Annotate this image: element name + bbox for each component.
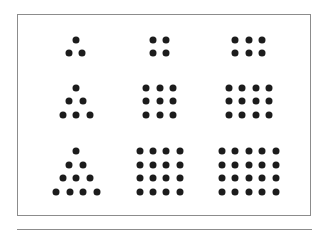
bottom-rule [17,229,312,230]
dot [273,189,280,196]
dot [259,189,266,196]
dot [150,175,157,182]
dot [60,112,67,119]
dot [150,50,157,57]
dot [67,189,74,196]
dot [87,175,94,182]
dot [163,148,170,155]
dot [177,148,184,155]
dot [60,175,67,182]
dot [246,37,253,44]
dot [232,37,239,44]
dot [246,162,253,169]
dot [170,85,177,92]
dot [273,175,280,182]
dot [232,189,239,196]
dot [226,85,233,92]
dot [246,189,253,196]
dot [259,162,266,169]
dot [80,162,87,169]
dot [246,175,253,182]
dot [163,175,170,182]
dot [137,148,144,155]
dot [163,37,170,44]
dot [73,85,80,92]
dot [232,162,239,169]
dot [73,175,80,182]
dot [80,98,87,105]
dot [219,175,226,182]
dot [239,98,246,105]
dot [273,148,280,155]
dot [177,175,184,182]
dot [239,85,246,92]
dot [66,98,73,105]
dot [79,50,86,57]
dot [150,37,157,44]
dot [150,148,157,155]
dot [80,189,87,196]
dot [259,175,266,182]
dot [137,175,144,182]
dot [66,162,73,169]
dot [157,112,164,119]
dot [87,112,94,119]
diagram-canvas [0,0,326,233]
dot [143,85,150,92]
dot [157,98,164,105]
dot [170,112,177,119]
dot [232,50,239,57]
dot [246,148,253,155]
dot [266,112,273,119]
dot [219,162,226,169]
dot [66,50,73,57]
dot [163,50,170,57]
dot [266,98,273,105]
dot [219,189,226,196]
dot [253,85,260,92]
dot [177,162,184,169]
dot [137,162,144,169]
dot [170,98,177,105]
dot [246,50,253,57]
dot [226,98,233,105]
dot [226,112,233,119]
dot [150,189,157,196]
dot [53,189,60,196]
dot [253,98,260,105]
dot [219,148,226,155]
dot [273,162,280,169]
dot [73,148,80,155]
dot [157,85,164,92]
dot [259,37,266,44]
dot [177,189,184,196]
dot [232,148,239,155]
dot [143,112,150,119]
dot [163,162,170,169]
dot [143,98,150,105]
dot [137,189,144,196]
dot [253,112,260,119]
dot [239,112,246,119]
dot [163,189,170,196]
dot [150,162,157,169]
dot [94,189,101,196]
dot [266,85,273,92]
dot [259,148,266,155]
dot [259,50,266,57]
dot [73,37,80,44]
dot [73,112,80,119]
dot [232,175,239,182]
